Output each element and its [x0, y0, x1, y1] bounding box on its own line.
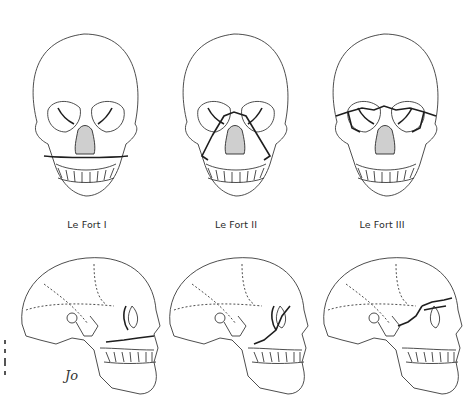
artist-signature: Jo: [65, 368, 78, 383]
margin-marks: [4, 340, 7, 376]
label-le-fort-3: Le Fort III: [312, 219, 452, 230]
label-le-fort-2: Le Fort II: [166, 219, 306, 230]
frontal-skull-le-fort-2: [172, 12, 302, 202]
label-le-fort-1: Le Fort I: [17, 219, 157, 230]
skull-side-icon: [316, 244, 466, 404]
skull-side-icon: [162, 244, 312, 404]
skull-front-icon: [322, 12, 452, 202]
frontal-skull-le-fort-1: [22, 12, 152, 202]
skull-side-icon: [14, 244, 164, 404]
lateral-skull-le-fort-2: [162, 244, 312, 404]
lateral-skull-le-fort-3: [316, 244, 466, 404]
lateral-skull-le-fort-1: [14, 244, 164, 404]
frontal-skull-le-fort-3: [322, 12, 452, 202]
skull-front-icon: [22, 12, 152, 202]
skull-front-icon: [172, 12, 302, 202]
